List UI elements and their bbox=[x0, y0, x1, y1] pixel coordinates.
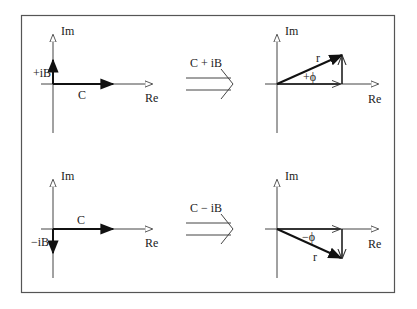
re-label: Re bbox=[368, 237, 381, 251]
magnitude-label: r bbox=[313, 250, 317, 264]
re-label: Re bbox=[368, 92, 381, 106]
re-label: Re bbox=[145, 236, 158, 250]
bottom-right-plot: Im Re r −ϕ bbox=[265, 169, 381, 278]
real-component-label: C bbox=[77, 213, 85, 227]
transform-label: C − iB bbox=[190, 201, 222, 215]
angle-label: −ϕ bbox=[302, 230, 315, 244]
im-label: Im bbox=[61, 24, 75, 38]
im-label: Im bbox=[285, 169, 299, 183]
im-label: Im bbox=[285, 24, 299, 38]
top-transform-arrow: C + iB bbox=[186, 56, 233, 99]
top-right-plot: Im Re r +ϕ bbox=[265, 24, 381, 133]
real-component-label: C bbox=[78, 88, 86, 102]
magnitude-label: r bbox=[316, 51, 320, 65]
angle-label: +ϕ bbox=[303, 70, 316, 84]
re-label: Re bbox=[145, 91, 158, 105]
bottom-transform-arrow: C − iB bbox=[186, 201, 233, 244]
top-left-plot: Im Re +iB C bbox=[33, 24, 158, 133]
im-label: Im bbox=[61, 169, 75, 183]
complex-plane-diagram: Im Re +iB C C + iB Im Re r +ϕ Im Re −iB … bbox=[0, 0, 417, 309]
imag-component-label: −iB bbox=[31, 235, 49, 249]
bottom-left-plot: Im Re −iB C bbox=[31, 169, 158, 278]
imag-component-label: +iB bbox=[33, 66, 51, 80]
transform-label: C + iB bbox=[190, 56, 222, 70]
